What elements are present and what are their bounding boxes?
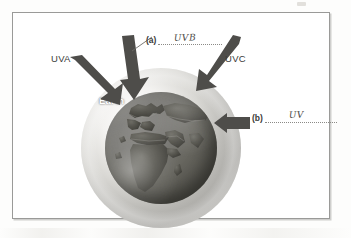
blank-a-tag: (a) bbox=[146, 36, 156, 46]
scan-edge-shadow bbox=[0, 228, 351, 238]
blank-a[interactable]: (a) UVB bbox=[146, 33, 222, 45]
blank-b-rule: UV bbox=[265, 111, 337, 123]
blank-b[interactable]: (b) UV bbox=[252, 111, 337, 123]
uva-label: UVA bbox=[51, 53, 71, 64]
scan-artifact bbox=[297, 2, 306, 6]
continents-graphic bbox=[105, 92, 217, 204]
globe-highlight bbox=[105, 92, 217, 204]
blank-b-tag: (b) bbox=[252, 114, 263, 124]
blank-a-rule: UVB bbox=[158, 33, 222, 45]
figure-frame: Earth UVA UVC (a) UVB (b) UV bbox=[12, 12, 330, 219]
uvc-label: UVC bbox=[225, 53, 246, 64]
earth-globe bbox=[105, 92, 217, 204]
uv-arrow bbox=[213, 113, 251, 133]
blank-a-answer: UVB bbox=[174, 32, 197, 43]
blank-b-answer: UV bbox=[289, 109, 305, 120]
